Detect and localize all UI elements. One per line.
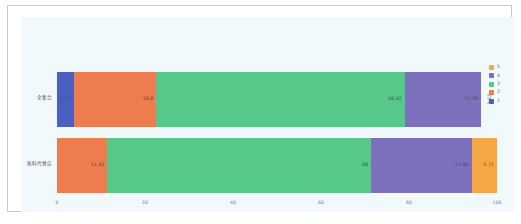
stacked-bar-row-2: 11.436022.865.71 [57,138,497,193]
chart-frame: 全集合 無料代替店 3.7718.856.4217.383.63 11.4360… [7,5,512,212]
x-axis-tick-0: 0 [56,201,59,206]
bar-segment-value-label: 17.38 [464,97,481,102]
legend-label: 2 [497,90,500,95]
bar-segment-series-2[interactable]: 18.8 [74,72,157,127]
plot-area: 3.7718.856.4217.383.63 11.436022.865.71 [57,69,497,199]
bar-segment-series-3[interactable]: 60 [107,138,371,193]
bar-segment-series-3[interactable]: 56.42 [156,72,404,127]
y-axis-label-row-2: 無料代替店 [18,162,52,167]
legend-label: 4 [497,74,500,79]
chart-figure: 全集合 無料代替店 3.7718.856.4217.383.63 11.4360… [0,0,521,224]
bar-segment-series-5[interactable]: 5.71 [472,138,497,193]
bar-segment-series-2[interactable]: 11.43 [57,138,107,193]
x-axis-tick-60: 60 [318,201,324,206]
bar-segment-series-1[interactable]: 3.77 [57,72,74,127]
x-axis-ticks: 020406080100 [57,201,497,213]
legend-swatch-icon [489,82,494,87]
legend-swatch-icon [489,73,494,78]
bar-segment-value-label: 60 [362,163,371,168]
chart-legend: 54321 [489,65,500,104]
x-axis-tick-100: 100 [493,201,502,206]
x-axis-tick-80: 80 [406,201,412,206]
legend-label: 3 [497,82,500,87]
y-axis-category-labels: 全集合 無料代替店 [21,69,55,199]
bar-segment-value-label: 22.86 [455,163,472,168]
legend-item-4[interactable]: 4 [489,73,500,78]
y-axis-label-row-1: 全集合 [18,96,52,101]
legend-label: 5 [497,65,500,70]
bar-segment-value-label: 3.77 [60,97,74,102]
legend-swatch-icon [489,90,494,95]
x-axis-tick-40: 40 [230,201,236,206]
chart-canvas: 全集合 無料代替店 3.7718.856.4217.383.63 11.4360… [21,17,514,212]
legend-swatch-icon [489,65,494,70]
x-axis-tick-20: 20 [142,201,148,206]
bar-segment-value-label: 18.8 [143,97,157,102]
bar-segment-value-label: 11.43 [91,163,108,168]
bar-segment-value-label: 56.42 [388,97,405,102]
legend-swatch-icon [489,99,494,104]
legend-label: 1 [497,99,500,104]
legend-item-1[interactable]: 1 [489,99,500,104]
bar-segment-series-4[interactable]: 22.86 [371,138,472,193]
stacked-bar-row-1: 3.7718.856.4217.383.63 [57,72,497,127]
legend-item-3[interactable]: 3 [489,82,500,87]
legend-item-2[interactable]: 2 [489,90,500,95]
bar-segment-value-label: 5.71 [483,163,497,168]
bar-segment-series-4[interactable]: 17.38 [405,72,481,127]
legend-item-5[interactable]: 5 [489,65,500,70]
